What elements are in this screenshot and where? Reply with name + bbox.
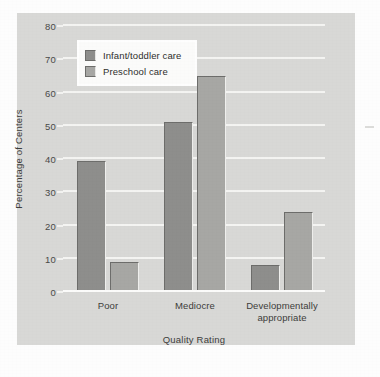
gridline: [63, 124, 325, 126]
y-tick-label-30: 30: [45, 187, 56, 198]
bar-dev-appropriate-infant-toddler: [251, 265, 280, 292]
bar-mediocre-preschool: [197, 76, 226, 292]
x-axis-title: Quality Rating: [63, 334, 325, 345]
legend-label: Infant/toddler care: [103, 50, 181, 61]
x-tick-label-mediocre: Mediocre: [175, 300, 215, 312]
x-tick-label-poor: Poor: [98, 300, 118, 312]
y-tick-mark: [57, 92, 63, 94]
y-tick-mark: [57, 191, 63, 193]
y-tick-mark: [57, 58, 63, 60]
legend-swatch-icon: [85, 50, 96, 61]
y-tick-label-80: 80: [45, 21, 56, 32]
y-tick-mark: [57, 158, 63, 160]
x-tick-label-developmentally-appropriate: Developmentally appropriate: [246, 300, 318, 323]
y-tick-label-60: 60: [45, 87, 56, 98]
y-tick-label-10: 10: [45, 253, 56, 264]
gridline: [63, 157, 325, 159]
scan-artifact-mark: [365, 126, 374, 128]
y-tick-mark: [57, 258, 63, 260]
legend: Infant/toddler care Preschool care: [77, 40, 197, 86]
bar-poor-preschool: [110, 262, 139, 292]
y-tick-label-20: 20: [45, 220, 56, 231]
legend-label: Preschool care: [103, 66, 168, 77]
y-tick-label-70: 70: [45, 54, 56, 65]
y-tick-mark: [57, 25, 63, 27]
figure: 0 10 20 30 40 50 60 70 80 Poor Mediocre …: [0, 0, 380, 377]
y-tick-label-0: 0: [51, 287, 56, 298]
legend-item-infant-toddler-care: Infant/toddler care: [85, 47, 181, 63]
legend-item-preschool-care: Preschool care: [85, 63, 181, 79]
bar-mediocre-infant-toddler: [164, 122, 193, 292]
y-axis-title: Percentage of Centers: [13, 109, 24, 208]
y-tick-mark: [57, 125, 63, 127]
y-tick-label-40: 40: [45, 154, 56, 165]
bar-poor-infant-toddler: [77, 161, 106, 292]
y-tick-mark: [57, 225, 63, 227]
y-tick-label-50: 50: [45, 120, 56, 131]
bar-dev-appropriate-preschool: [284, 212, 313, 292]
legend-swatch-icon: [85, 66, 96, 77]
gridline: [63, 24, 325, 26]
gridline: [63, 91, 325, 93]
x-axis-line: [63, 290, 325, 292]
